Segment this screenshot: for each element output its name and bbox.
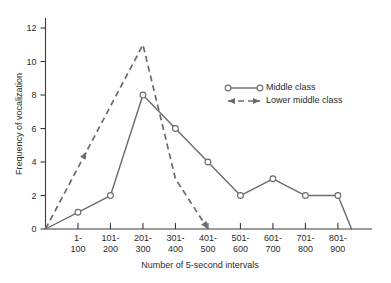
legend-arrow-left-icon	[228, 98, 235, 104]
x-tick-label-bottom: 500	[200, 244, 215, 254]
x-tick-label-top: 301-	[166, 233, 184, 243]
x-tick-label-bottom: 300	[135, 244, 150, 254]
series-line-middle-class	[46, 95, 352, 229]
x-tick-label-bottom: 800	[298, 244, 313, 254]
x-tick-label-top: 701-	[296, 233, 314, 243]
x-tick-label-top: 501-	[231, 233, 249, 243]
line-chart: 024681012 1-100101-200201-300301-400401-…	[0, 0, 391, 283]
y-tick-label: 4	[31, 157, 36, 167]
x-tick-label-top: 101-	[101, 233, 119, 243]
y-tick-label: 0	[31, 224, 36, 234]
data-series-layer	[46, 45, 352, 231]
series-arrow-mid-lower-middle-class	[80, 150, 89, 160]
x-tick-label-bottom: 100	[70, 244, 85, 254]
legend-label: Lower middle class	[266, 95, 343, 105]
x-tick-label-top: 601-	[264, 233, 282, 243]
x-tick-label-top: 1-	[74, 233, 82, 243]
data-point-middle-class	[270, 176, 276, 182]
x-tick-label-bottom: 400	[168, 244, 183, 254]
x-tick-label-top: 201-	[134, 233, 152, 243]
x-tick-label-top: 401-	[199, 233, 217, 243]
y-tick-label: 6	[31, 124, 36, 134]
data-point-middle-class	[140, 92, 146, 98]
legend-arrow-right-icon	[253, 98, 260, 104]
data-point-middle-class	[335, 193, 341, 199]
x-tick-label-top: 801-	[329, 233, 347, 243]
chart-legend: Middle classLower middle class	[225, 82, 343, 105]
data-point-middle-class	[173, 126, 179, 132]
data-point-middle-class	[303, 193, 309, 199]
x-tick-label-bottom: 600	[233, 244, 248, 254]
y-tick-label: 2	[31, 191, 36, 201]
data-point-middle-class	[238, 193, 244, 199]
x-tick-label-bottom: 700	[265, 244, 280, 254]
x-axis-title: Number of 5-second intervals	[141, 260, 259, 270]
data-point-middle-class	[205, 159, 211, 165]
x-tick-label-bottom: 200	[103, 244, 118, 254]
x-tick-label-bottom: 900	[330, 244, 345, 254]
y-tick-label: 10	[26, 57, 36, 67]
y-tick-group: 024681012	[26, 23, 45, 234]
legend-label: Middle class	[266, 82, 316, 92]
legend-marker-open-circle-icon	[257, 85, 263, 91]
data-point-middle-class	[75, 209, 81, 215]
legend-marker-open-circle-icon	[225, 85, 231, 91]
x-tick-group: 1-100101-200201-300301-400401-500501-600…	[70, 223, 346, 254]
y-tick-label: 8	[31, 90, 36, 100]
data-point-middle-class	[108, 193, 114, 199]
y-axis-title: Frequency of vocalization	[14, 73, 24, 175]
axes-group	[46, 18, 373, 229]
y-tick-label: 12	[26, 23, 36, 33]
chart-figure: 024681012 1-100101-200201-300301-400401-…	[0, 0, 391, 283]
